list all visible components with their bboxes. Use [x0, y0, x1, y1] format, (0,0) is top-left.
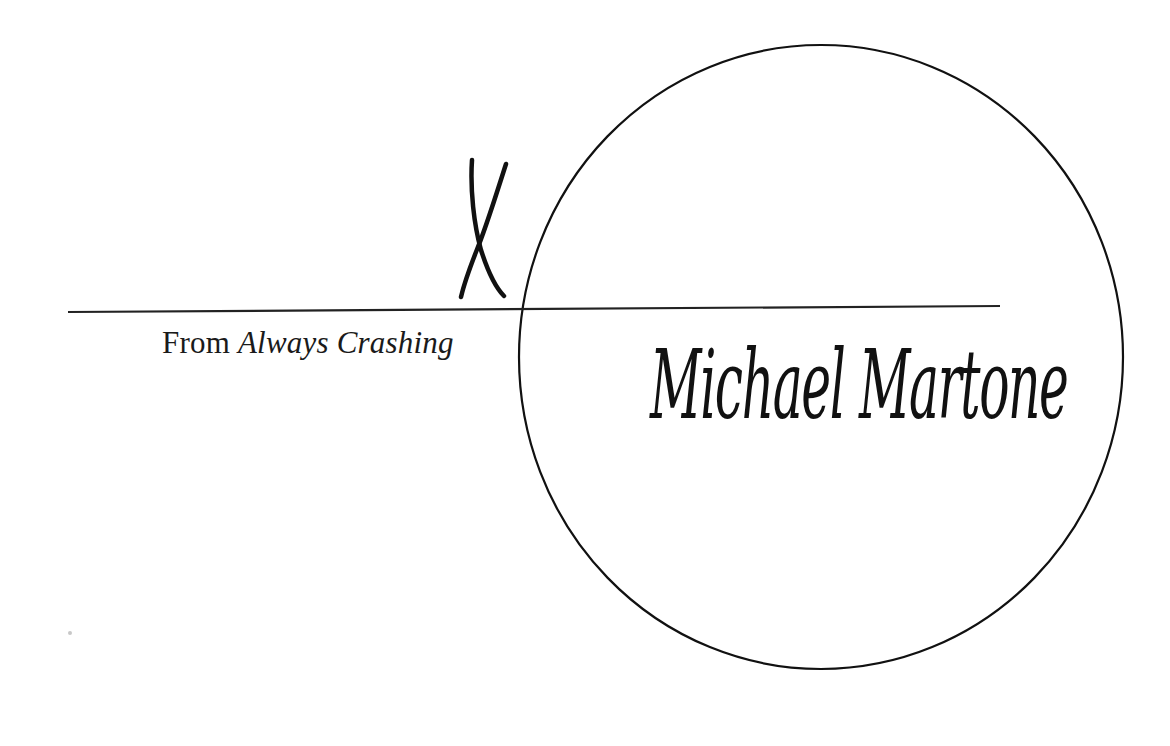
speck: [68, 631, 72, 635]
caption: From Always Crashing: [162, 325, 454, 361]
horizontal-rule: [68, 306, 1000, 312]
author-signature: Michael Martone: [650, 330, 1067, 441]
x-mark-icon: [461, 160, 506, 297]
book-title: Always Crashing: [238, 325, 454, 360]
caption-prefix: From: [162, 325, 230, 360]
